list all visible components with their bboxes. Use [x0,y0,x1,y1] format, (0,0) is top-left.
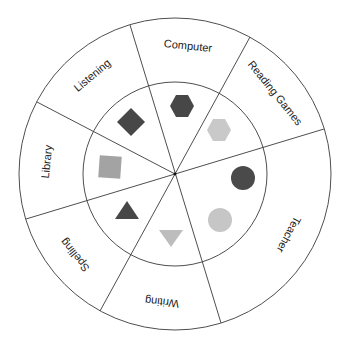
sector-label-spelling: Spelling [58,236,92,274]
diamond-dark-listening [117,108,145,136]
sector-label-reading-games: Reading Games [246,58,306,128]
center-wheel-diagram: ComputerReading GamesTeacherWritingSpell… [0,0,347,346]
sector-label-listening: Listening [71,56,112,94]
sector-label-teacher: Teacher [274,215,303,255]
hexagon-light-reading-games [207,119,231,141]
sector-label-writing: Writing [144,295,179,310]
square-medium-library [98,155,121,178]
triangle-dark-spelling [115,201,139,219]
hexagon-dark-computer [170,95,194,117]
sector-label-library: Library [39,144,54,179]
inverted-triangle-light-writing [159,230,183,247]
sector-labels: ComputerReading GamesTeacherWritingSpell… [39,37,305,310]
center-point [174,173,177,176]
sector-label-computer: Computer [163,37,213,54]
circle-light-teacher [208,208,232,232]
circle-dark-teacher [231,166,255,190]
